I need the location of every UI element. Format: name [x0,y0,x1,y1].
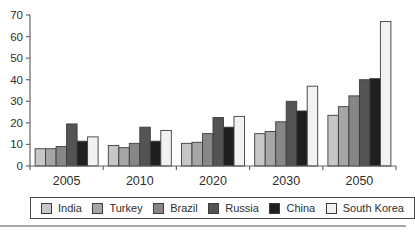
bar-turkey-2005 [46,149,57,166]
legend-item-china: China [269,203,315,214]
legend-swatch-turkey [92,203,103,214]
bar-india-2005 [35,149,46,166]
legend-item-russia: Russia [208,203,259,214]
legend-swatch-south-korea [326,203,337,214]
y-tick-label-20: 20 [10,117,23,129]
bar-china-2050 [370,79,381,166]
bar-chart-plot: 20052010202020302050010203040506070 [0,0,406,196]
bar-india-2020 [182,143,193,166]
bar-brazil-2020 [203,134,214,166]
legend-swatch-china [269,203,280,214]
legend-label-turkey: Turkey [109,203,142,214]
bar-south-korea-2030 [307,86,318,166]
y-tick-label-30: 30 [10,95,23,107]
bar-south-korea-2005 [88,137,99,166]
y-tick-label-10: 10 [10,138,23,150]
x-axis-label-2050: 2050 [345,174,373,188]
y-tick-label-0: 0 [17,160,23,172]
bar-turkey-2020 [192,142,203,166]
legend-label-india: India [58,203,82,214]
bar-russia-2030 [286,101,297,166]
legend-item-india: India [41,203,82,214]
x-axis-label-2030: 2030 [272,174,300,188]
legend-item-south-korea: South Korea [326,203,404,214]
legend-swatch-brazil [153,203,164,214]
y-tick-label-70: 70 [10,9,23,21]
bar-china-2020 [224,127,235,166]
chart-legend: IndiaTurkeyBrazilRussiaChinaSouth Korea [30,197,415,219]
bar-turkey-2030 [265,131,276,166]
bottom-rule [0,225,406,227]
legend-label-russia: Russia [225,203,259,214]
bar-russia-2050 [359,80,370,166]
legend-item-turkey: Turkey [92,203,142,214]
bar-russia-2010 [140,127,151,166]
bar-china-2030 [297,111,308,166]
bar-russia-2005 [67,124,78,166]
bar-china-2005 [77,141,88,166]
legend-swatch-russia [208,203,219,214]
y-tick-label-40: 40 [10,74,23,86]
x-axis-label-2005: 2005 [53,174,81,188]
bar-china-2010 [150,141,161,166]
x-axis-label-2010: 2010 [126,174,154,188]
y-tick-label-60: 60 [10,31,23,43]
bar-south-korea-2020 [234,116,245,166]
bar-brazil-2050 [349,96,360,166]
bar-brazil-2030 [276,122,287,166]
legend-label-china: China [286,203,315,214]
bar-brazil-2010 [129,143,140,166]
bar-brazil-2005 [56,147,67,166]
legend-swatch-india [41,203,52,214]
bar-india-2010 [108,146,119,166]
bar-turkey-2010 [119,148,130,166]
bar-india-2030 [255,134,266,166]
bar-south-korea-2010 [161,130,172,166]
bar-south-korea-2050 [380,21,391,166]
x-axis-label-2020: 2020 [199,174,227,188]
y-tick-label-50: 50 [10,52,23,64]
bar-russia-2020 [213,117,224,166]
legend-item-brazil: Brazil [153,203,198,214]
bar-turkey-2050 [338,107,349,166]
legend-label-brazil: Brazil [170,203,198,214]
legend-label-south-korea: South Korea [343,203,404,214]
bar-india-2050 [328,115,339,166]
